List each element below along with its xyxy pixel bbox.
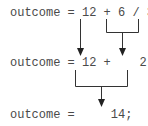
arrow-head-icon	[98, 99, 105, 107]
arrow-12-carry	[77, 19, 84, 56]
arrow-head-icon	[119, 48, 126, 56]
bracket-division	[107, 19, 139, 56]
bracket-addition	[76, 70, 128, 107]
evaluation-connectors	[0, 0, 148, 126]
arrow-head-icon	[77, 48, 84, 56]
